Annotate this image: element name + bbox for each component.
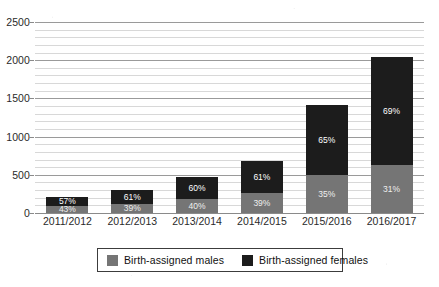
bar-segment-percent-label: 61% xyxy=(124,193,141,202)
bar-segment-percent-label: 61% xyxy=(253,173,270,182)
bar-segment-males: 31% xyxy=(371,165,413,213)
bar-segment-males: 39% xyxy=(111,204,153,213)
bar-segment-females: 60% xyxy=(176,177,218,198)
x-axis-tick-label: 2014/2015 xyxy=(237,215,287,227)
legend-item-birth-assigned-females: Birth-assigned females xyxy=(242,254,368,266)
y-axis-tick-mark xyxy=(29,98,34,99)
bar-segment-females: 61% xyxy=(241,161,283,193)
y-axis: 05001000150020002500 xyxy=(0,0,33,287)
bar-segment-percent-label: 60% xyxy=(189,184,206,193)
bar-segment-percent-label: 39% xyxy=(124,204,141,213)
bar-group: 60%40% xyxy=(176,177,218,213)
y-axis-tick-mark xyxy=(29,137,34,138)
y-axis-tick-label: 1500 xyxy=(6,92,30,104)
bar-group: 65%35% xyxy=(306,105,348,213)
legend-label-females: Birth-assigned females xyxy=(259,254,368,266)
x-axis: 2011/20122012/20132013/20142014/20152015… xyxy=(35,215,424,231)
plot-area: 57%43%61%39%60%40%61%39%65%35%69%31% xyxy=(35,22,424,213)
y-axis-tick-label: 1000 xyxy=(6,131,30,143)
y-axis-tick-label: 2000 xyxy=(6,54,30,66)
x-axis-tick-label: 2011/2012 xyxy=(43,215,92,227)
x-axis-tick-label: 2015/2016 xyxy=(302,215,352,227)
bar-segment-percent-label: 43% xyxy=(59,205,76,214)
stacked-bar-chart: 05001000150020002500 57%43%61%39%60%40%6… xyxy=(0,0,439,287)
bar-segment-males: 39% xyxy=(241,193,283,213)
bar-segment-females: 65% xyxy=(306,105,348,176)
bar-group: 57%43% xyxy=(46,197,88,213)
gridline-major xyxy=(35,213,424,214)
y-axis-tick-label: 2500 xyxy=(6,16,30,28)
y-axis-tick-mark xyxy=(29,175,34,176)
bar-segment-males: 43% xyxy=(46,206,88,213)
bar-segment-percent-label: 35% xyxy=(318,190,335,199)
bar-segment-females: 69% xyxy=(371,57,413,165)
bar-group: 61%39% xyxy=(111,190,153,213)
x-axis-tick-label: 2016/2017 xyxy=(367,215,417,227)
bar-group: 69%31% xyxy=(371,57,413,213)
x-axis-tick-label: 2012/2013 xyxy=(107,215,157,227)
bar-segment-females: 61% xyxy=(111,190,153,204)
bar-segment-percent-label: 39% xyxy=(253,199,270,208)
y-axis-tick-mark xyxy=(29,213,34,214)
chart-legend: Birth-assigned males Birth-assigned fema… xyxy=(97,248,343,272)
y-axis-tick-label: 500 xyxy=(12,169,30,181)
bar-segment-males: 35% xyxy=(306,175,348,213)
legend-label-males: Birth-assigned males xyxy=(124,254,224,266)
bar-series-container: 57%43%61%39%60%40%61%39%65%35%69%31% xyxy=(35,22,424,213)
y-axis-tick-mark xyxy=(29,22,34,23)
y-axis-tick-mark xyxy=(29,60,34,61)
bar-segment-percent-label: 31% xyxy=(383,185,400,194)
bar-segment-percent-label: 69% xyxy=(383,107,400,116)
legend-swatch-icon-females xyxy=(242,255,253,266)
bar-segment-percent-label: 40% xyxy=(189,202,206,211)
bar-segment-males: 40% xyxy=(176,199,218,213)
legend-swatch-icon-males xyxy=(107,255,118,266)
legend-item-birth-assigned-males: Birth-assigned males xyxy=(107,254,224,266)
x-axis-tick-label: 2013/2014 xyxy=(172,215,222,227)
bar-segment-percent-label: 65% xyxy=(318,136,335,145)
bar-group: 61%39% xyxy=(241,161,283,213)
